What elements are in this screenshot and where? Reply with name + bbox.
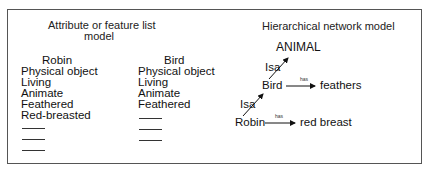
arrow-robin-isa-bird — [243, 94, 263, 116]
arrow-bird-isa-animal — [269, 58, 288, 79]
network-arrows — [0, 0, 432, 174]
